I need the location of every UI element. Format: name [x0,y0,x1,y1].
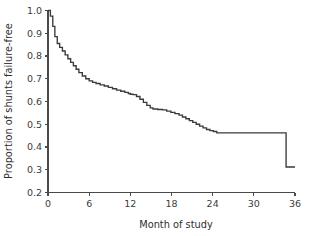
x-axis-title: Month of study [139,219,213,230]
x-tick-label: 36 [289,198,301,209]
x-tick-label: 24 [207,198,219,209]
y-tick-label: 0.7 [27,73,42,84]
x-tick-label: 6 [86,198,92,209]
y-tick-label: 0.6 [27,96,42,107]
y-axis-tick-labels: 0.20.30.40.50.60.70.80.91.0 [27,5,42,198]
y-tick-label: 0.8 [27,50,42,61]
x-tick-label: 0 [45,198,51,209]
x-axis-tick-labels: 061218243036 [45,198,301,209]
x-axis: 061218243036 [45,193,301,209]
y-tick-label: 0.5 [27,119,42,130]
y-tick-label: 0.9 [27,28,42,39]
chart-figure: 0.20.30.40.50.60.70.80.91.0 061218243036… [0,0,310,236]
x-tick-label: 12 [124,198,136,209]
y-axis: 0.20.30.40.50.60.70.80.91.0 [27,5,48,198]
y-tick-label: 0.4 [27,141,42,152]
y-tick-label: 0.2 [27,187,42,198]
km-survival-line [48,11,295,168]
y-tick-label: 0.3 [27,164,42,175]
y-tick-label: 1.0 [27,5,42,16]
x-tick-label: 30 [248,198,260,209]
y-axis-title: Proportion of shunts failure-free [3,23,14,179]
x-tick-label: 18 [165,198,177,209]
survival-curve-chart: 0.20.30.40.50.60.70.80.91.0 061218243036… [0,0,310,236]
